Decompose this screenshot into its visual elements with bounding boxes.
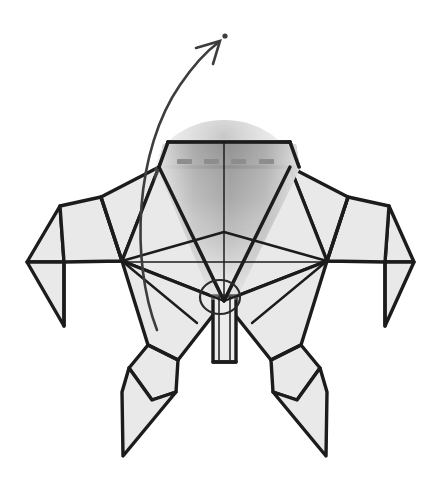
- dash-mark-1: [177, 159, 192, 164]
- fold-arrow-tip-dot: [222, 33, 227, 38]
- dash-mark-2: [204, 159, 219, 164]
- origami-figure: [0, 0, 436, 487]
- dash-mark-3: [231, 159, 246, 164]
- origami-diagram-root: [0, 0, 436, 487]
- dash-mark-4: [259, 159, 274, 164]
- left-claw-lower-panel: [27, 262, 64, 326]
- left-arm-claw-panel: [27, 206, 64, 262]
- right-claw-lower-panel: [385, 262, 414, 326]
- center-tail-strip: [213, 296, 236, 362]
